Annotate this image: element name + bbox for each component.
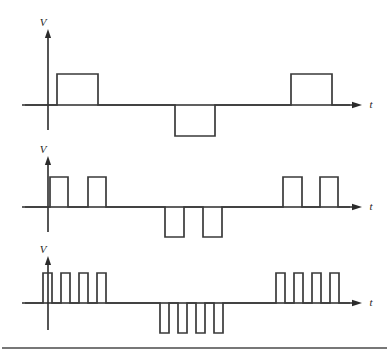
voltage-axis-label-2: V xyxy=(40,143,48,155)
time-axis-label-1: t xyxy=(369,98,373,110)
waveform-figure: VtVtVt xyxy=(0,0,389,357)
waveform-plot-3: Vt xyxy=(22,243,373,333)
waveform-plot-1: Vt xyxy=(22,16,373,136)
voltage-axis-arrowhead-3 xyxy=(45,256,51,265)
voltage-axis-label-3: V xyxy=(40,243,48,255)
waveform-svg: VtVtVt xyxy=(0,0,389,357)
voltage-axis-arrowhead-1 xyxy=(45,29,51,38)
time-axis-arrowhead-2 xyxy=(352,204,362,210)
signal-trace-2 xyxy=(25,177,350,237)
waveform-plot-2: Vt xyxy=(22,143,373,237)
time-axis-label-3: t xyxy=(369,296,373,308)
time-axis-label-2: t xyxy=(369,200,373,212)
voltage-axis-arrowhead-2 xyxy=(45,156,51,165)
voltage-axis-label-1: V xyxy=(40,16,48,28)
time-axis-arrowhead-1 xyxy=(352,102,362,108)
time-axis-arrowhead-3 xyxy=(352,300,362,306)
